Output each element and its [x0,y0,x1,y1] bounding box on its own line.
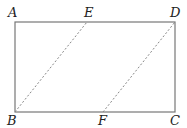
label-c: C [170,113,180,128]
rectangle-abcd [15,22,175,112]
label-f: F [97,113,108,128]
geometry-diagram: A E D B F C [0,0,187,128]
label-e: E [83,5,94,20]
label-b: B [6,113,17,128]
dashed-segment-fd [103,22,175,112]
label-d: D [169,5,181,20]
label-a: A [7,5,17,20]
dashed-segment-be [15,22,87,112]
